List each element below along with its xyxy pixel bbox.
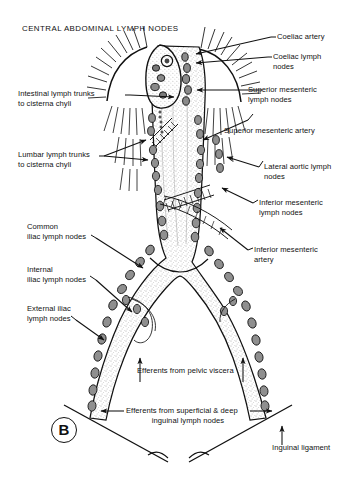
figure-title: CENTRAL ABDOMINAL LYMPH NODES	[22, 24, 179, 33]
label-internal-iliac-lymph-nodes: Internal iliac lymph nodes	[27, 265, 86, 284]
label-superior-mesenteric-artery: Superior mesenteric artery	[224, 126, 315, 136]
aorta-iliac-outline	[90, 46, 266, 420]
label-external-iliac-lymph-nodes: External iliac lymph nodes	[27, 304, 71, 323]
label-efferents-pelvic-viscera: Efferents from pelvic viscera	[137, 366, 234, 376]
label-inguinal-ligament: Inguinal ligament	[272, 443, 330, 453]
label-intestinal-lymph-trunks: Intestinal lymph trunks to cisterna chyl…	[18, 89, 95, 108]
abdominal-aorta	[90, 46, 266, 420]
label-common-iliac-lymph-nodes: Common iliac lymph nodes	[27, 222, 86, 241]
label-inferior-mesenteric-artery: Inferior mesenteric artery	[254, 245, 350, 264]
label-inferior-mesenteric-lymph-nodes: Inferior mesenteric lymph nodes	[259, 198, 351, 217]
label-superior-mesenteric-lymph-nodes: Superior mesenteric lymph nodes	[248, 85, 350, 104]
label-lateral-aortic-lymph-nodes: Lateral aortic lymph nodes	[264, 162, 352, 181]
label-lumbar-lymph-trunks: Lumbar lymph trunks to cisterna chyli	[18, 150, 90, 169]
left-diaphragmatic-dome	[87, 26, 147, 191]
label-efferents-inguinal-line1: Efferents from superficial & deep	[126, 406, 238, 416]
label-coeliac-lymph-nodes: Coeliac lymph nodes	[273, 52, 349, 71]
anatomical-figure: CENTRAL ABDOMINAL LYMPH NODES Coeliac ar…	[0, 0, 353, 480]
label-efferents-inguinal-line2: inguinal lymph nodes	[126, 416, 250, 426]
label-coeliac-artery: Coeliac artery	[277, 32, 325, 42]
panel-label-b: B	[51, 417, 77, 443]
